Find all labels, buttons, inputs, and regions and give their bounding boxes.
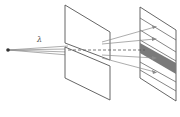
wavelength-label: λ bbox=[36, 35, 42, 44]
observation-screen bbox=[140, 7, 176, 101]
point-source bbox=[6, 48, 10, 52]
diffraction-diagram: λ bbox=[0, 0, 180, 117]
incident-rays bbox=[8, 46, 68, 55]
